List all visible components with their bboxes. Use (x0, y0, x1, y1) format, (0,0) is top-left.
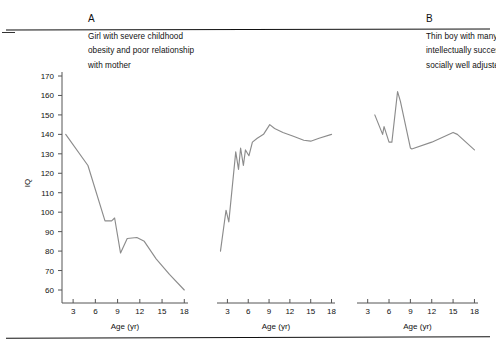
x-tick-label: 9 (115, 307, 120, 316)
x-axis-title: Age (yr) (262, 322, 291, 331)
y-tick-label: 60 (45, 286, 54, 295)
y-axis-title: IQ (23, 179, 32, 187)
x-tick-label: 3 (365, 307, 370, 316)
x-tick-label: 6 (246, 307, 251, 316)
y-tick-label: 160 (41, 91, 55, 100)
x-tick-label: 18 (470, 307, 479, 316)
panel-c-plot: 369121518Age (yr) (345, 0, 496, 354)
iq-trajectory-line (66, 134, 185, 290)
y-tick-label: 130 (41, 150, 55, 159)
x-tick-label: 18 (180, 307, 189, 316)
x-axis-title: Age (yr) (111, 322, 140, 331)
y-tick-label: 140 (41, 130, 55, 139)
panel-b-plot: 369121518Age (yr) (205, 0, 345, 354)
x-tick-label: 6 (387, 307, 392, 316)
figure-container: A Girl with severe childhood obesity and… (0, 0, 496, 354)
x-axis-title: Age (yr) (403, 322, 432, 331)
y-tick-label: 170 (41, 72, 55, 81)
x-tick-label: 9 (408, 307, 413, 316)
x-tick-label: 9 (267, 307, 272, 316)
y-tick-label: 80 (45, 247, 54, 256)
x-tick-label: 15 (306, 307, 315, 316)
iq-trajectory-line (375, 92, 475, 150)
x-tick-label: 15 (449, 307, 458, 316)
panel-c-svg: 369121518Age (yr) (345, 0, 496, 354)
x-tick-label: 15 (158, 307, 167, 316)
iq-trajectory-line (220, 125, 331, 251)
panel-a-plot: 369121518Age (yr)60708090100110120130140… (0, 0, 205, 354)
y-tick-label: 110 (41, 189, 54, 198)
y-tick-label: 150 (41, 111, 55, 120)
x-tick-label: 3 (225, 307, 230, 316)
x-tick-label: 12 (285, 307, 294, 316)
y-tick-label: 120 (41, 169, 55, 178)
x-tick-label: 6 (93, 307, 98, 316)
y-tick-label: 70 (45, 267, 54, 276)
panel-a: A Girl with severe childhood obesity and… (0, 0, 205, 354)
x-tick-label: 3 (71, 307, 76, 316)
y-tick-label: 100 (41, 208, 55, 217)
panel-a-svg: 369121518Age (yr)60708090100110120130140… (0, 0, 205, 354)
x-tick-label: 12 (135, 307, 144, 316)
x-tick-label: 12 (427, 307, 436, 316)
panel-b-svg: 369121518Age (yr) (205, 0, 345, 354)
y-tick-label: 90 (45, 228, 54, 237)
x-tick-label: 18 (327, 307, 336, 316)
